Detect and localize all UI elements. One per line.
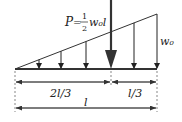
- max-intensity-label: w₀: [160, 35, 174, 48]
- svg-text:2: 2: [82, 24, 87, 33]
- dim-left-label: 2l/3: [49, 87, 71, 100]
- dim-total-label: l: [84, 96, 88, 109]
- svg-text:=: =: [73, 17, 81, 28]
- svg-text:w₀l: w₀l: [89, 16, 107, 29]
- dim-right-label: l/3: [128, 87, 142, 100]
- distributed-load-diagram: P = 1 2 w₀l w₀ 2l/3 l/3 l: [0, 0, 182, 122]
- svg-text:1: 1: [82, 12, 87, 21]
- resultant-label: P = 1 2 w₀l: [64, 12, 107, 33]
- resultant-force-arrow: [105, 0, 117, 69]
